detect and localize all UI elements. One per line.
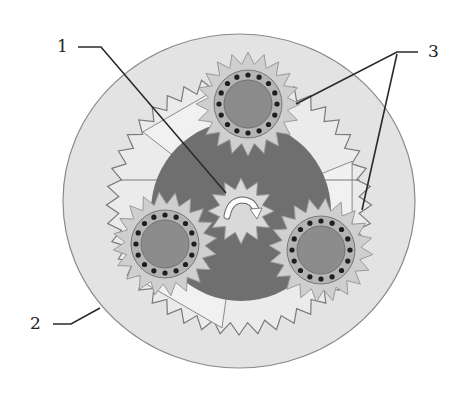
bolt-hole-icon xyxy=(234,75,239,80)
bolt-hole-icon xyxy=(307,221,312,226)
bolt-hole-icon xyxy=(225,122,230,127)
label-1-sun-gear: 1 xyxy=(57,38,68,55)
planet-hub xyxy=(224,80,272,128)
bolt-hole-icon xyxy=(225,81,230,86)
bolt-hole-icon xyxy=(307,274,312,279)
bolt-hole-icon xyxy=(298,227,303,232)
leader-line-2 xyxy=(53,308,100,324)
bolt-hole-icon xyxy=(162,270,167,275)
bolt-hole-icon xyxy=(318,276,323,281)
bolt-hole-icon xyxy=(256,128,261,133)
bolt-hole-icon xyxy=(234,128,239,133)
label-2-ring-gear: 2 xyxy=(30,315,41,332)
bolt-hole-icon xyxy=(183,221,188,226)
bolt-hole-icon xyxy=(151,268,156,273)
bolt-hole-icon xyxy=(292,258,297,263)
bolt-hole-icon xyxy=(189,252,194,257)
bolt-hole-icon xyxy=(266,122,271,127)
planet-hub xyxy=(297,226,345,274)
bolt-hole-icon xyxy=(151,215,156,220)
bolt-hole-icon xyxy=(219,112,224,117)
bolt-hole-icon xyxy=(136,230,141,235)
bolt-hole-icon xyxy=(345,236,350,241)
bolt-hole-icon xyxy=(142,262,147,267)
bolt-hole-icon xyxy=(272,90,277,95)
bolt-hole-icon xyxy=(189,230,194,235)
bolt-hole-icon xyxy=(339,227,344,232)
bolt-hole-icon xyxy=(345,258,350,263)
bolt-hole-icon xyxy=(318,218,323,223)
bolt-hole-icon xyxy=(298,268,303,273)
bolt-hole-icon xyxy=(347,247,352,252)
bolt-hole-icon xyxy=(292,236,297,241)
bolt-hole-icon xyxy=(329,221,334,226)
planetary-gear-diagram xyxy=(0,0,474,402)
bolt-hole-icon xyxy=(133,241,138,246)
bolt-hole-icon xyxy=(266,81,271,86)
label-3-planet-gears: 3 xyxy=(428,43,439,60)
bolt-hole-icon xyxy=(183,262,188,267)
bolt-hole-icon xyxy=(289,247,294,252)
bolt-hole-icon xyxy=(142,221,147,226)
bolt-hole-icon xyxy=(162,212,167,217)
bolt-hole-icon xyxy=(173,268,178,273)
bolt-hole-icon xyxy=(173,215,178,220)
bolt-hole-icon xyxy=(136,252,141,257)
bolt-hole-icon xyxy=(245,130,250,135)
bolt-hole-icon xyxy=(256,75,261,80)
bolt-hole-icon xyxy=(245,72,250,77)
bolt-hole-icon xyxy=(274,101,279,106)
bolt-hole-icon xyxy=(191,241,196,246)
bolt-hole-icon xyxy=(339,268,344,273)
bolt-hole-icon xyxy=(272,112,277,117)
bolt-hole-icon xyxy=(219,90,224,95)
bolt-hole-icon xyxy=(216,101,221,106)
planet-hub xyxy=(141,220,189,268)
bolt-hole-icon xyxy=(329,274,334,279)
